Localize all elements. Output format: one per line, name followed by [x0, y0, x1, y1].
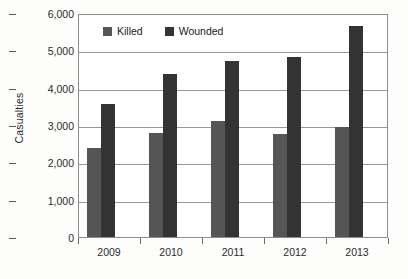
bar-group — [203, 15, 265, 237]
y-axis-tick-label: 1,000 — [16, 195, 74, 207]
x-axis-tick-label: 2010 — [140, 246, 202, 258]
x-axis-tick-labels: 20092010201120122013 — [78, 246, 388, 266]
bar-group — [141, 15, 203, 237]
bar-group — [265, 15, 327, 237]
y-axis-tick-mark — [9, 201, 16, 202]
y-axis-tick-label: 4,000 — [16, 83, 74, 95]
bar-group — [327, 15, 389, 237]
y-axis-tick-label: 2,000 — [16, 157, 74, 169]
bar-killed-2009[interactable] — [87, 148, 101, 237]
y-axis-tick-mark — [9, 126, 16, 127]
y-axis-tick-mark — [9, 89, 16, 90]
y-axis-tick-mark — [9, 14, 16, 15]
bar-killed-2012[interactable] — [273, 134, 287, 237]
x-axis-tick-label: 2009 — [78, 246, 140, 258]
x-axis-tick-mark — [264, 238, 265, 244]
y-axis-tick-labels: 01,0002,0003,0004,0005,0006,000 — [16, 14, 74, 238]
y-axis-tick-label: 3,000 — [16, 120, 74, 132]
bar-wounded-2010[interactable] — [163, 74, 177, 237]
x-axis-tick-mark — [140, 238, 141, 244]
x-axis-tick-mark — [388, 238, 389, 244]
bar-wounded-2009[interactable] — [101, 104, 115, 237]
x-axis-tick-mark — [326, 238, 327, 244]
y-axis-tick-label: 5,000 — [16, 45, 74, 57]
bar-group — [79, 15, 141, 237]
x-axis-tick-label: 2011 — [202, 246, 264, 258]
bar-killed-2011[interactable] — [211, 121, 225, 237]
x-axis-tick-label: 2012 — [264, 246, 326, 258]
x-axis-tick-mark — [202, 238, 203, 244]
bar-chart: Casualties 01,0002,0003,0004,0005,0006,0… — [0, 0, 408, 279]
plot-area: KilledWounded — [78, 14, 388, 238]
y-axis-tick-label: 6,000 — [16, 8, 74, 20]
x-axis-tick-marks — [78, 238, 388, 244]
bars-layer — [79, 15, 387, 237]
bar-killed-2013[interactable] — [335, 127, 349, 237]
y-axis-tick-mark — [9, 51, 16, 52]
x-axis-tick-mark — [78, 238, 79, 244]
y-axis-tick-mark — [9, 163, 16, 164]
bar-killed-2010[interactable] — [149, 133, 163, 237]
bar-wounded-2012[interactable] — [287, 57, 301, 237]
bar-wounded-2011[interactable] — [225, 61, 239, 237]
x-axis-tick-label: 2013 — [326, 246, 388, 258]
bar-wounded-2013[interactable] — [349, 26, 363, 237]
y-axis-tick-mark — [9, 238, 16, 239]
y-axis-tick-label: 0 — [16, 232, 74, 244]
